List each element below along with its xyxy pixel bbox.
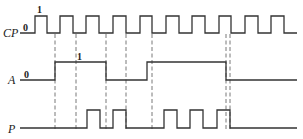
cp-high-level-label: 1	[37, 4, 42, 15]
waveforms	[20, 16, 297, 128]
waveform-p	[20, 110, 297, 128]
dashed-guides	[55, 34, 230, 129]
timing-diagram: CP 0 1 A 0 1 P	[0, 0, 303, 139]
cp-low-level-label: 0	[23, 22, 28, 33]
a-low-level-label: 0	[24, 69, 29, 80]
waveform-a	[20, 62, 297, 80]
waveform-cp	[20, 16, 297, 33]
signal-label-a: A	[7, 73, 16, 87]
signal-label-cp: CP	[3, 26, 19, 40]
a-high-level-label: 1	[77, 51, 82, 62]
signal-label-p: P	[7, 122, 16, 136]
